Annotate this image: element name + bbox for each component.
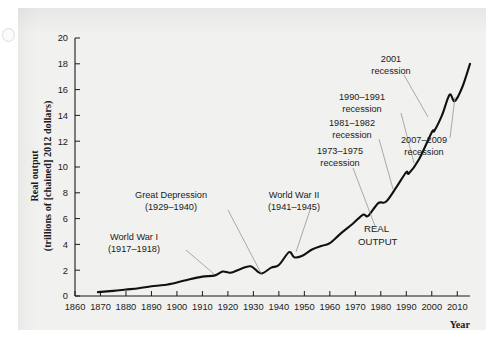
annotation-leader-line	[186, 250, 214, 274]
annotation-label-line1: World War II	[269, 190, 320, 200]
annotation-label-line2: recession	[332, 130, 371, 140]
annotation-leader-line	[450, 97, 455, 138]
y-axis-title: Real output (trillions of [chained] 2012…	[29, 101, 54, 252]
series-label: REAL OUTPUT	[358, 223, 398, 247]
real-output-curve	[98, 64, 470, 292]
annotation-leader-line	[228, 210, 262, 275]
x-axis-title: Year	[450, 319, 471, 330]
x-tick-label: 2010	[447, 302, 468, 312]
annotation-label-line2: (1941–1945)	[268, 202, 320, 212]
y-tick-label: 4	[63, 240, 68, 250]
x-tick-label: 1920	[218, 302, 239, 312]
annotation-recession-1973-1975: 1973–1975recession	[317, 146, 375, 226]
annotation-label-line1: 1973–1975	[317, 146, 363, 156]
y-axis-title-line2: (trillions of [chained] 2012 dollars)	[42, 101, 54, 252]
annotation-label-line1: 2001	[381, 54, 401, 64]
y-tick-label: 6	[63, 214, 68, 224]
annotation-leader-line	[353, 168, 375, 226]
y-tick-label: 12	[58, 137, 68, 147]
x-tick-label: 2000	[421, 302, 442, 312]
x-tick-label: 1960	[319, 302, 340, 312]
annotation-world-war-i: World War I(1917–1918)	[108, 232, 214, 274]
x-tick-label: 1950	[294, 302, 315, 312]
real-output-line-chart: Real output (trillions of [chained] 2012…	[0, 0, 502, 359]
x-tick-label: 1930	[243, 302, 264, 312]
y-axis-title-line1: Real output	[29, 150, 40, 202]
y-tick-label: 20	[58, 33, 68, 43]
annotation-leader-line	[296, 210, 310, 252]
x-tick-label: 1860	[65, 302, 86, 312]
y-axis-ticks: 02468101214161820	[58, 33, 80, 301]
annotation-label-line2: recession	[342, 104, 381, 114]
x-axis-ticks: 1860187018801890190019101920193019401950…	[65, 291, 468, 312]
annotation-label-line1: Great Depression	[135, 190, 207, 200]
annotation-label-line1: 1990–1991	[339, 92, 385, 102]
x-tick-label: 1940	[269, 302, 290, 312]
x-tick-label: 1890	[141, 302, 162, 312]
annotation-label-line2: recession	[320, 158, 359, 168]
x-tick-label: 1910	[192, 302, 213, 312]
annotation-recession-2007-2009: 2007–2009recession	[401, 97, 455, 157]
y-tick-label: 16	[58, 85, 68, 95]
y-tick-label: 14	[58, 111, 68, 121]
annotation-label-line2: recession	[371, 66, 410, 76]
x-tick-label: 1980	[370, 302, 391, 312]
x-tick-label: 1900	[167, 302, 188, 312]
annotation-label-line2: (1929–1940)	[145, 202, 197, 212]
y-tick-label: 0	[63, 291, 68, 301]
x-tick-label: 1880	[116, 302, 137, 312]
annotation-label-line2: (1917–1918)	[108, 244, 160, 254]
x-tick-label: 1870	[90, 302, 111, 312]
annotation-label-line1: 1981–1982	[329, 118, 375, 128]
annotation-label-line2: recession	[404, 147, 443, 157]
series-label-line1: REAL	[364, 223, 390, 234]
series-label-line2: OUTPUT	[358, 236, 398, 247]
annotation-leader-line	[404, 75, 428, 117]
y-tick-label: 10	[58, 162, 68, 172]
x-tick-label: 1970	[345, 302, 366, 312]
x-tick-label: 1990	[396, 302, 417, 312]
figure-page: Real output (trillions of [chained] 2012…	[0, 0, 502, 359]
annotation-leader-line	[379, 139, 393, 189]
y-tick-label: 18	[58, 59, 68, 69]
annotation-world-war-ii: World War II(1941–1945)	[268, 190, 320, 252]
y-tick-label: 2	[63, 266, 68, 276]
y-tick-label: 8	[63, 188, 68, 198]
annotation-label-line1: World War I	[110, 232, 158, 242]
annotation-label-line1: 2007–2009	[401, 135, 447, 145]
annotation-layer: World War I(1917–1918)Great Depression(1…	[108, 54, 455, 275]
